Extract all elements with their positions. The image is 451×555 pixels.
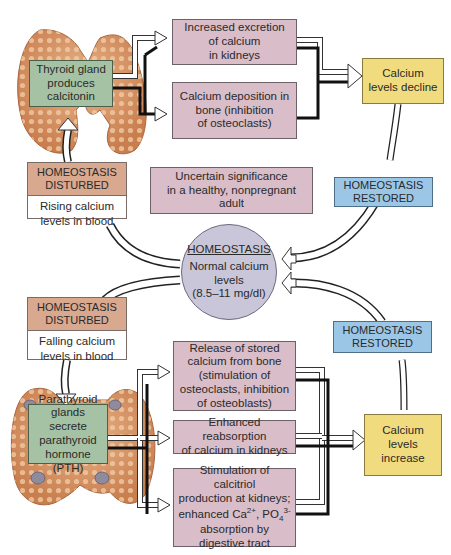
ca-text: enhanced Ca [178,507,246,519]
result-box-calcium-decline: Calcium levels decline [362,58,444,104]
po-subscript: 4 [279,514,283,523]
center-title: HOMEOSTASIS [187,243,271,257]
note-box-uncertain-significance: Uncertain significance in a healthy, non… [150,167,313,214]
disturbed-header: HOMEOSTASIS DISTURBED [28,298,126,331]
homeostasis-restored-top: HOMEOSTASIS RESTORED [334,177,433,207]
ca-charge: 2+ [247,506,256,515]
calcitriol-line-1: Stimulation of calcitriol [178,464,291,492]
center-text: Normal calcium levels (8.5–11 mg/dl) [189,260,268,301]
disturbed-header: HOMEOSTASIS DISTURBED [28,163,126,196]
effect-box-bone-deposition: Calcium deposition in bone (inhibition o… [172,82,297,139]
parathyroid-gland-box: Parathyroid glands secrete parathyroid h… [28,404,108,464]
disturbed-text: Falling calcium levels in blood [28,331,126,366]
thyroid-gland-box: Thyroid gland produces calcitonin [29,60,113,107]
homeostasis-restored-bottom: HOMEOSTASIS RESTORED [333,321,432,353]
calcitriol-line-5: digestive tract [199,537,270,551]
disturbed-text: Rising calcium levels in blood [28,196,126,231]
result-box-calcium-increase: Calcium levels increase [364,414,442,476]
homeostasis-center-circle: HOMEOSTASIS Normal calcium levels (8.5–1… [181,224,277,320]
homeostasis-disturbed-falling: HOMEOSTASIS DISTURBED Falling calcium le… [27,297,127,360]
calcitriol-line-3: enhanced Ca2+, PO43- [178,506,290,524]
po-charge: 3- [283,506,290,515]
calcitriol-line-2: production at kidneys; [179,492,291,506]
po-text: , PO [256,507,279,519]
effect-box-calcitriol: Stimulation of calcitriol production at … [173,468,296,547]
homeostasis-disturbed-rising: HOMEOSTASIS DISTURBED Rising calcium lev… [27,162,127,219]
effect-box-bone-release: Release of stored calcium from bone (sti… [173,341,296,411]
calcitriol-line-4: absorption by [200,523,269,537]
effect-box-kidney-reabsorption: Enhanced reabsorption of calcium in kidn… [173,420,296,454]
effect-box-kidney-excretion: Increased excretion of calcium in kidney… [172,19,297,65]
